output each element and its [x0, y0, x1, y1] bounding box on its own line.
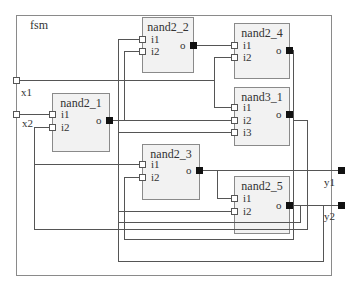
nand2-3-o-label: o [186, 165, 192, 176]
wire-nand2-1-o-up [125, 52, 140, 121]
nand2-5-i2-pin[interactable] [231, 208, 238, 215]
nand2-4-o-pin[interactable] [286, 47, 293, 54]
wire-nand2-3-i1 [35, 128, 140, 165]
nand2-1-i1-label: i1 [61, 109, 70, 120]
port-y2-label: y2 [324, 211, 335, 222]
wires-layer [0, 0, 356, 288]
nand2-5-o-pin[interactable] [286, 202, 293, 209]
nand2-5-o-label: o [276, 200, 282, 211]
wire-x1-to-nand3-i1 [215, 81, 232, 108]
wire-nand2-2-i1 [119, 40, 324, 262]
nand3-1-i2-pin[interactable] [231, 117, 238, 124]
port-x2-label: x2 [22, 118, 33, 129]
nand2-5-i1-label: i1 [243, 193, 252, 204]
nand2-2-o-pin[interactable] [190, 42, 197, 49]
nand2-2-i2-label: i2 [151, 46, 160, 57]
nand2-2-i1-pin[interactable] [139, 36, 146, 43]
nand2-3-i1-label: i1 [151, 159, 160, 170]
nand3-1-o-label: o [276, 109, 282, 120]
nand2-2-i2-pin[interactable] [139, 48, 146, 55]
nand2-4-i2-pin[interactable] [231, 54, 238, 61]
port-x1-pin[interactable] [13, 77, 20, 84]
nand2-5-i1-pin[interactable] [231, 195, 238, 202]
schematic-canvas: fsm nand2_2 nand2_4 nand2_1 nand3_1 nand… [0, 0, 356, 288]
nand3-1-i1-pin[interactable] [231, 104, 238, 111]
port-x1-label: x1 [21, 87, 32, 98]
nand2-3-i1-pin[interactable] [139, 161, 146, 168]
wire-nand2-3-o-to-nand2-5-i1 [218, 171, 232, 199]
nand2-1-i2-label: i2 [61, 122, 70, 133]
nand2-3-i2-pin[interactable] [139, 174, 146, 181]
wire-nand2-1-i2 [35, 121, 308, 230]
nand2-1-i2-pin[interactable] [49, 124, 56, 131]
nand2-4-o-label: o [276, 45, 282, 56]
nand3-1-o-pin[interactable] [286, 111, 293, 118]
port-y1-pin[interactable] [338, 167, 345, 174]
wire-x1-to-nand2-4-i2 [215, 58, 232, 81]
nand3-1-i1-label: i1 [243, 102, 252, 113]
nand2-2-i1-label: i1 [151, 34, 160, 45]
port-y2-pin[interactable] [338, 202, 345, 209]
nand2-5-i2-label: i2 [243, 206, 252, 217]
nand2-4-i1-label: i1 [243, 40, 252, 51]
nand2-1-o-label: o [96, 115, 102, 126]
port-y1-label: y1 [324, 177, 335, 188]
nand2-2-o-label: o [180, 40, 186, 51]
nand2-1-i1-pin[interactable] [49, 111, 56, 118]
nand2-3-o-pin[interactable] [196, 167, 203, 174]
nand3-1-i3-label: i3 [243, 127, 252, 138]
wire-nand2-5-o-loop [119, 206, 301, 223]
nand2-3-i2-label: i2 [151, 172, 160, 183]
nand2-1-o-pin[interactable] [106, 117, 113, 124]
nand3-1-i2-label: i2 [243, 115, 252, 126]
port-x2-pin[interactable] [13, 111, 20, 118]
nand2-4-i2-label: i2 [243, 52, 252, 63]
nand3-1-i3-pin[interactable] [231, 129, 238, 136]
nand2-4-i1-pin[interactable] [231, 42, 238, 49]
